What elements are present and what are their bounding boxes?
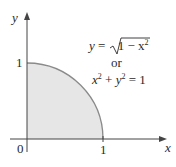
x-axis-label: x bbox=[165, 141, 171, 154]
y-tick-label: 1 bbox=[16, 56, 23, 69]
equation-connector: or bbox=[111, 56, 122, 69]
y-axis-arrow-icon bbox=[24, 12, 30, 20]
x-tick-label: 1 bbox=[100, 143, 107, 156]
diagram-canvas bbox=[0, 0, 176, 167]
equation-line-3: x2 + y2 = 1 bbox=[92, 73, 146, 86]
eq1-equals: = bbox=[95, 38, 109, 53]
eq3-rhs: = 1 bbox=[125, 72, 145, 87]
equation-line-1: y = 1 − x2 bbox=[89, 39, 148, 52]
y-axis-label: y bbox=[12, 11, 18, 24]
eq3-plus: + bbox=[102, 72, 116, 87]
eq1-exponent: 2 bbox=[144, 38, 148, 47]
eq1-sqrt-body: 1 − x bbox=[109, 38, 145, 53]
origin-label: 0 bbox=[17, 142, 24, 155]
